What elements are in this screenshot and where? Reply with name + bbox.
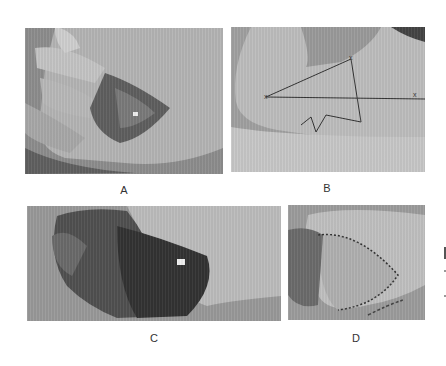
panel-d-photo bbox=[288, 205, 425, 320]
hand-palm-wound-image bbox=[25, 28, 223, 174]
svg-text:x: x bbox=[264, 93, 268, 100]
forearm-flap-marking-image: x x x bbox=[231, 27, 425, 172]
panel-d-label: D bbox=[346, 332, 366, 344]
svg-text:x: x bbox=[349, 54, 353, 61]
panel-a-label: A bbox=[114, 184, 134, 196]
panel-c-label: C bbox=[144, 332, 164, 344]
svg-text:x: x bbox=[413, 91, 417, 98]
panel-a-photo bbox=[25, 28, 223, 174]
hand-flap-coverage-image bbox=[288, 205, 425, 320]
panel-c-photo bbox=[27, 206, 281, 321]
panel-b-label: B bbox=[317, 182, 337, 194]
panel-b-photo: x x x bbox=[231, 27, 425, 172]
hand-debrided-wound-image bbox=[27, 206, 281, 321]
